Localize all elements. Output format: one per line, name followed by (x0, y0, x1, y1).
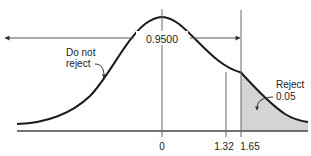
reject-label-line2: 0.05 (276, 91, 296, 102)
reject-label-line1: Reject (276, 79, 305, 90)
tick-label-1-32: 1.32 (214, 141, 234, 152)
tick-label-0: 0 (159, 141, 165, 152)
chart-svg: 0.9500 Do not reject Reject 0.05 0 1.32 … (0, 0, 311, 156)
span-value-label: 0.9500 (146, 33, 178, 45)
normal-distribution-figure: 0.9500 Do not reject Reject 0.05 0 1.32 … (0, 0, 311, 156)
tick-label-1-65: 1.65 (240, 141, 260, 152)
do-not-reject-label-line1: Do not (66, 47, 96, 58)
do-not-reject-pointer (95, 64, 104, 78)
do-not-reject-label-line2: reject (66, 58, 91, 69)
